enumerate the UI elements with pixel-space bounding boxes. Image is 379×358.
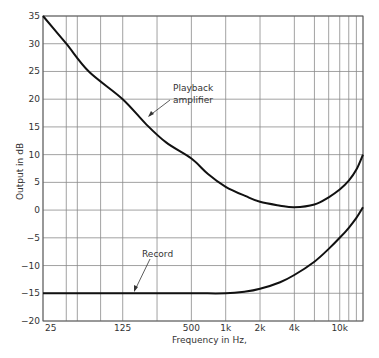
x-tick-label: 25 [45, 323, 56, 333]
y-tick-label: 20 [29, 94, 41, 104]
curve-record [43, 207, 363, 293]
y-tick-label: −20 [21, 316, 40, 326]
y-tick-label: 15 [29, 122, 40, 132]
y-tick-label: 0 [34, 205, 40, 215]
x-tick-label: 500 [183, 323, 200, 333]
y-tick-label: 10 [29, 150, 41, 160]
y-tick-label: 25 [29, 66, 40, 76]
y-tick-label: 35 [29, 11, 40, 21]
y-tick-label: −15 [21, 288, 40, 298]
y-axis-label: Output in dB [15, 143, 25, 200]
y-tick-label: 30 [29, 39, 41, 49]
playback-annotation: Playback amplifier [148, 83, 214, 117]
x-axis-ticks: 251255001k2k4k10k [45, 323, 349, 333]
x-tick-label: 10k [331, 323, 348, 333]
record-arrow-head-icon [134, 285, 138, 292]
x-axis-label: Frequency in Hz, [172, 335, 247, 345]
curve-playback-amplifier [43, 16, 363, 207]
playback-arrow-head-icon [148, 111, 154, 117]
playback-label-line1: Playback [173, 83, 214, 93]
record-label: Record [142, 249, 173, 259]
x-tick-label: 4k [289, 323, 301, 333]
y-tick-label: 5 [34, 177, 40, 187]
x-tick-label: 2k [255, 323, 267, 333]
y-tick-label: −10 [21, 261, 40, 271]
record-arrow-line [135, 259, 150, 290]
y-tick-label: −5 [27, 233, 40, 243]
record-annotation: Record [134, 249, 173, 292]
frequency-response-chart: 35302520151050−5−10−15−20 251255001k2k4k… [0, 0, 379, 358]
x-tick-label: 125 [114, 323, 131, 333]
playback-label-line2: amplifier [173, 95, 213, 105]
x-tick-label: 1k [220, 323, 232, 333]
